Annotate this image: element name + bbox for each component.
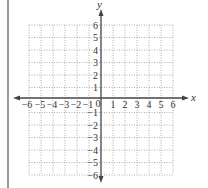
y-axis: [99, 9, 104, 183]
y-axis-label: y: [96, 0, 102, 10]
svg-text:5: 5: [159, 99, 164, 110]
svg-text:6: 6: [171, 99, 176, 110]
svg-text:4: 4: [147, 99, 152, 110]
svg-text:4: 4: [93, 45, 98, 56]
svg-text:−5: −5: [87, 157, 98, 168]
svg-text:5: 5: [93, 32, 98, 43]
svg-text:3: 3: [93, 57, 98, 68]
svg-text:−4: −4: [47, 99, 58, 110]
svg-text:1: 1: [111, 99, 116, 110]
svg-text:6: 6: [93, 20, 98, 31]
svg-text:−6: −6: [22, 99, 33, 110]
svg-text:1: 1: [93, 82, 98, 93]
svg-text:−5: −5: [35, 99, 46, 110]
svg-text:−1: −1: [87, 107, 98, 118]
svg-text:−2: −2: [87, 120, 98, 131]
x-axis-left-arrow-icon: [13, 96, 20, 101]
svg-text:−3: −3: [87, 132, 98, 143]
svg-text:2: 2: [123, 99, 128, 110]
y-axis-down-arrow-icon: [99, 176, 104, 183]
svg-text:−2: −2: [71, 99, 82, 110]
svg-text:3: 3: [135, 99, 140, 110]
coordinate-plane: x y −6 −5 −4 −3 −2 −1 1 2 3 4 5 6 0 6 5 …: [0, 0, 208, 188]
x-axis-label: x: [190, 91, 196, 103]
x-axis-right-arrow-icon: [182, 96, 189, 101]
svg-text:2: 2: [93, 70, 98, 81]
svg-text:−3: −3: [59, 99, 70, 110]
y-axis-up-arrow-icon: [99, 9, 104, 16]
svg-text:−4: −4: [87, 145, 98, 156]
svg-text:−6: −6: [87, 170, 98, 181]
